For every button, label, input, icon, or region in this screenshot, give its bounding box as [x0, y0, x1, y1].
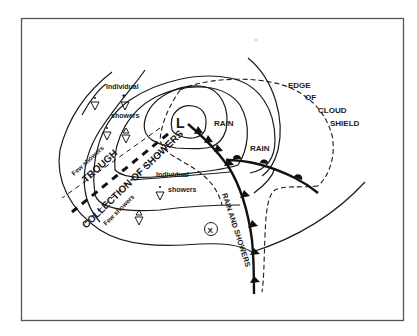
cloud-edge-label-3: CLOUD: [318, 106, 347, 115]
weather-diagram: L RAIN RAIN EDGE OF CLOUD SHIELD Individ…: [0, 0, 417, 336]
point-marker: X: [205, 223, 218, 236]
shower-symbol-3: [156, 186, 164, 200]
cloud-edge-label-1: EDGE: [288, 81, 311, 90]
cloud-edge-label-2: OF: [305, 93, 316, 102]
hail-shower-symbol-2: [135, 210, 143, 225]
point-marker-label: X: [208, 226, 214, 235]
showers-mid-label: showers: [168, 186, 197, 193]
collection-of-showers-label: COLLECTION OF SHOWERS: [80, 128, 186, 231]
rain-label-2: RAIN: [250, 144, 270, 153]
rain-label-1: RAIN: [214, 119, 234, 128]
snow-asterisk-icon: *: [122, 92, 126, 102]
individual-top-label: Individual: [106, 83, 139, 90]
cloud-edge-label-4: SHIELD: [330, 119, 360, 128]
showers-top-label: showers: [111, 112, 140, 119]
speck: [255, 39, 256, 40]
rain-and-showers-label: RAIN AND SHOWERS: [220, 192, 252, 268]
individual-mid-label: Individual: [156, 171, 189, 178]
